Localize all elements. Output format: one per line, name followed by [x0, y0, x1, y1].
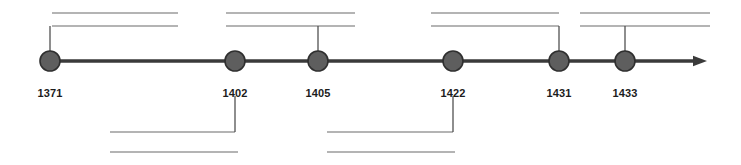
year-label-1422: 1422 — [441, 88, 466, 99]
year-label-1405: 1405 — [306, 88, 331, 99]
year-label-1431: 1431 — [547, 88, 572, 99]
event-node-1431[interactable] — [549, 51, 569, 71]
callout-bottom-1422 — [327, 96, 455, 152]
callout-top-1405 — [226, 13, 355, 51]
year-label-1371: 1371 — [38, 88, 63, 99]
top-callout-group — [50, 13, 710, 51]
event-node-1402[interactable] — [225, 51, 245, 71]
event-node-1405[interactable] — [308, 51, 328, 71]
event-node-1371[interactable] — [40, 51, 60, 71]
callout-top-1371 — [50, 13, 178, 51]
timeline-axis — [50, 56, 707, 66]
event-node-1433[interactable] — [615, 51, 635, 71]
bottom-callout-group — [110, 96, 455, 152]
year-label-1402: 1402 — [223, 88, 248, 99]
callout-bottom-1402 — [110, 96, 238, 152]
event-node-1422[interactable] — [443, 51, 463, 71]
timeline-canvas — [0, 0, 741, 165]
timeline-diagram: 137114021405142214311433 — [0, 0, 741, 165]
callout-top-1431 — [431, 13, 559, 51]
callout-top-1433 — [580, 13, 710, 51]
year-label-1433: 1433 — [613, 88, 638, 99]
arrow-head-icon — [693, 56, 707, 66]
